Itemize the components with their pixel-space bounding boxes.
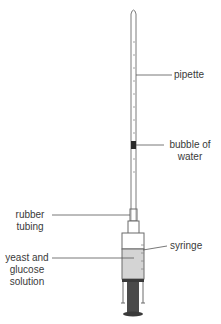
syringe <box>121 221 145 317</box>
label-rubber-line-1: rubber <box>10 209 50 221</box>
pipette <box>131 10 136 212</box>
label-rubber-tubing: rubber tubing <box>10 209 50 233</box>
label-bubble-of-water: bubble of water <box>164 139 216 163</box>
leader-lines <box>52 75 172 258</box>
pipette-graduations <box>133 42 135 172</box>
yeast-solution <box>122 249 144 279</box>
water-bubble <box>131 141 136 149</box>
label-bubble-line-2: water <box>164 151 216 163</box>
label-rubber-line-2: tubing <box>10 221 50 233</box>
plunger <box>127 282 139 314</box>
label-yeast-line-3: solution <box>2 276 52 288</box>
label-pipette: pipette <box>174 69 204 81</box>
rubber-tubing <box>130 209 137 221</box>
label-syringe: syringe <box>170 240 202 252</box>
plunger-handle <box>123 312 143 317</box>
diagram-canvas: pipette bubble of water rubber tubing sy… <box>0 0 221 324</box>
label-yeast-glucose-solution: yeast and glucose solution <box>2 252 52 288</box>
label-bubble-line-1: bubble of <box>164 139 216 151</box>
label-yeast-line-2: glucose <box>2 264 52 276</box>
label-yeast-line-1: yeast and <box>2 252 52 264</box>
